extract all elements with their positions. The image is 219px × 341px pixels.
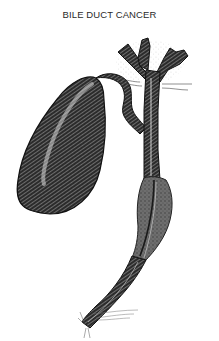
gallbladder <box>17 77 105 214</box>
distal-bile-duct <box>78 256 146 338</box>
bile-duct-illustration <box>0 0 219 341</box>
tumor-mass <box>132 177 172 262</box>
